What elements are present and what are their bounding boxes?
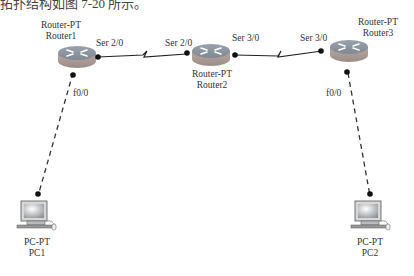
- r3-fast-port-label: f0/0: [326, 88, 341, 99]
- router3-icon[interactable]: [330, 40, 368, 62]
- pc1-label: PC-PT PC1: [12, 237, 62, 259]
- pc2-model: PC-PT: [345, 237, 395, 248]
- pc2-icon[interactable]: [351, 201, 390, 230]
- r3-serial-port-label: Ser 3/0: [300, 33, 327, 44]
- router2-label: Router-PT Router2: [182, 69, 242, 91]
- router1-label: Router-PT Router1: [33, 20, 89, 42]
- pc1-model: PC-PT: [12, 237, 62, 248]
- router2-name: Router2: [182, 80, 242, 91]
- router1-name: Router1: [33, 31, 89, 42]
- router1-icon[interactable]: [58, 46, 96, 68]
- router3-model: Router-PT: [348, 17, 408, 28]
- router2-model: Router-PT: [182, 69, 242, 80]
- r1-serial-port-label: Ser 2/0: [96, 38, 123, 49]
- router3-label: Router-PT Router3: [348, 17, 408, 39]
- router2-icon[interactable]: [192, 44, 230, 66]
- ethernet-link-r1-pc1[interactable]: [38, 73, 73, 196]
- r2-serial-right-port-label: Ser 3/0: [232, 33, 259, 44]
- pc2-name: PC2: [345, 248, 395, 259]
- serial-link-r1-r2[interactable]: [98, 51, 186, 57]
- router1-model: Router-PT: [33, 20, 89, 31]
- router3-name: Router3: [348, 28, 408, 39]
- serial-link-r2-r3[interactable]: [235, 51, 322, 57]
- pc1-name: PC1: [12, 248, 62, 259]
- r1-fast-port-label: f0/0: [73, 88, 88, 99]
- pc2-label: PC-PT PC2: [345, 237, 395, 259]
- pc1-icon[interactable]: [17, 201, 56, 230]
- ethernet-link-r3-pc2[interactable]: [348, 73, 370, 196]
- r2-serial-left-port-label: Ser 2/0: [165, 38, 192, 49]
